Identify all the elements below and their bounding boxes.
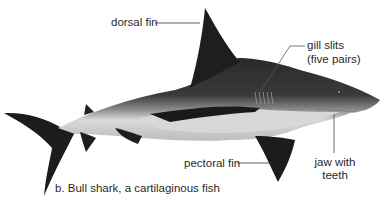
dorsal-fin-label: dorsal fin xyxy=(111,16,158,29)
pectoral-fin-label: pectoral fin xyxy=(184,157,240,170)
jaw-label-line1: jaw with xyxy=(312,156,358,169)
gill-slits-label-line2: (five pairs) xyxy=(307,53,361,66)
pectoral-fin xyxy=(255,136,295,182)
anal-fin xyxy=(80,132,96,152)
shark-diagram: dorsal fin gill slits (five pairs) pecto… xyxy=(0,0,382,209)
jaw-label-line2: teeth xyxy=(312,169,358,182)
figure-caption: b. Bull shark, a cartilaginous fish xyxy=(55,182,220,195)
gill-slits-label-line1: gill slits xyxy=(307,39,344,52)
